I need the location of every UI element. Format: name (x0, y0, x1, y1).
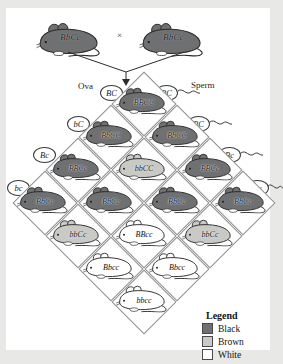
offspring-genotype: BbCC (148, 131, 206, 140)
offspring-genotype: Bbcc (82, 263, 140, 272)
legend-item-brown: Brown (202, 336, 278, 347)
punnett-cell-content: bbcc (121, 280, 167, 326)
offspring-genotype: BbCc (148, 197, 206, 206)
legend-item-white: White (202, 349, 278, 360)
offspring-genotype: bbcc (115, 296, 173, 305)
offspring-genotype: Bbcc (148, 263, 206, 272)
figure-page: BbCc × BbCc (0, 0, 276, 358)
offspring-genotype: BbCc (214, 197, 272, 206)
legend-label-black: Black (218, 324, 240, 334)
legend-label-white: White (218, 350, 241, 360)
offspring-genotype: BbCc (82, 197, 140, 206)
offspring-genotype: bbCC (115, 164, 173, 173)
offspring-genotype: bbCc (49, 230, 107, 239)
offspring-mouse-white: bbcc (115, 283, 173, 323)
offspring-genotype: BBCC (115, 98, 173, 107)
legend-label-brown: Brown (218, 337, 244, 347)
legend-item-black: Black (202, 323, 278, 334)
legend: Legend Black Brown White (202, 310, 278, 360)
offspring-genotype: BbCc (16, 197, 74, 206)
legend-swatch-white (202, 349, 213, 360)
offspring-genotype: bbCc (181, 230, 239, 239)
offspring-genotype: BBCc (49, 164, 107, 173)
legend-swatch-black (202, 323, 213, 334)
offspring-genotype: BbCC (82, 131, 140, 140)
offspring-genotype: BBcc (115, 230, 173, 239)
legend-title: Legend (206, 310, 278, 321)
offspring-genotype: BBCc (181, 164, 239, 173)
figure-paper: BbCc × BbCc (6, 8, 270, 350)
legend-swatch-brown (202, 336, 213, 347)
